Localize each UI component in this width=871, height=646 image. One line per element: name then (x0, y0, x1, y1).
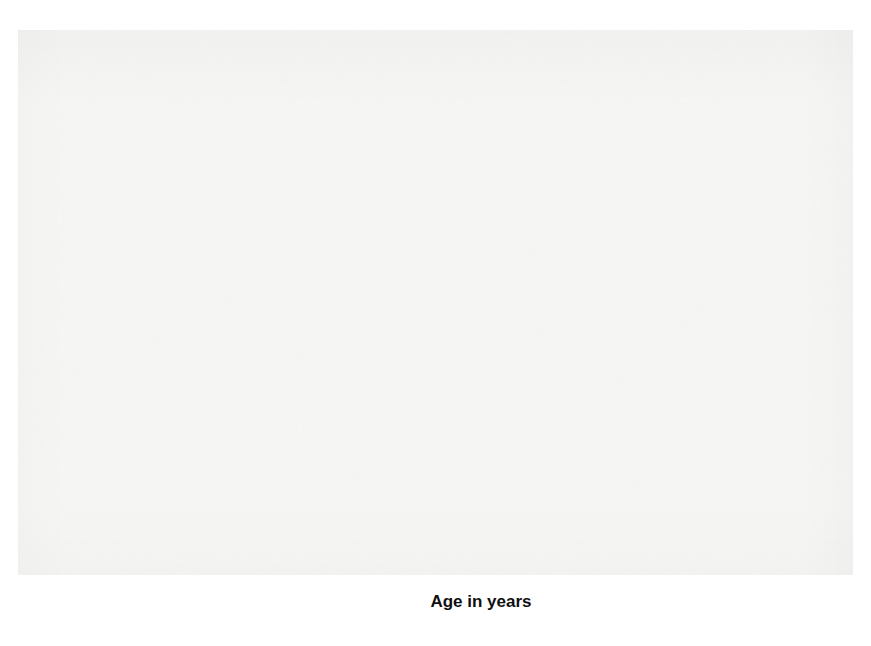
scanned-page-background (18, 30, 853, 575)
x-axis-title: Age in years (430, 592, 531, 611)
figure-container: 0100110120130140150160 23456789101112131… (0, 0, 871, 646)
